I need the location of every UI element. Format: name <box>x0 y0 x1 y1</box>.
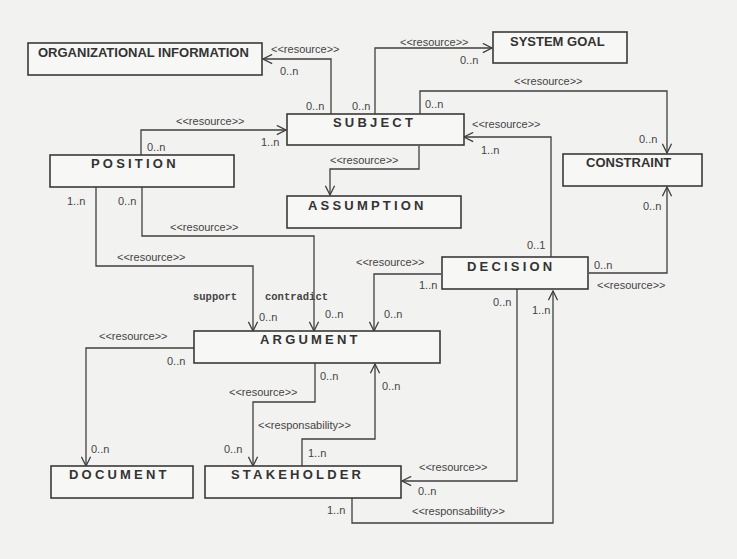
stereotype-label: <<resource>> <box>514 75 583 87</box>
entity-stakeholder[interactable]: STAKEHOLDER <box>205 466 401 498</box>
entity-constraint[interactable]: CONSTRAINT <box>563 154 702 186</box>
stereotype-label: <<responsability>> <box>412 505 505 517</box>
multiplicity: 0..n <box>594 259 612 271</box>
multiplicity: 0..n <box>91 443 109 455</box>
stereotype-label: <<resource>> <box>170 221 239 233</box>
relation-decision-stakeholder <box>402 289 517 481</box>
stereotype-label: <<resource>> <box>99 330 168 342</box>
entity-decision[interactable]: DECISION <box>442 257 588 289</box>
entity-document[interactable]: DOCUMENT <box>51 466 193 498</box>
stereotype-label: <<resource>> <box>330 154 399 166</box>
multiplicity: 1..n <box>532 304 550 316</box>
entity-position[interactable]: POSITION <box>50 155 234 187</box>
multiplicity: 0..n <box>306 100 324 112</box>
multiplicity: 0..n <box>224 443 242 455</box>
stereotype-label: <<resource>> <box>400 36 469 48</box>
multiplicity: 1..n <box>327 504 345 516</box>
svg-text:ORGANIZATIONAL INFORMATION: ORGANIZATIONAL INFORMATION <box>38 45 249 60</box>
multiplicity: 0..1 <box>527 239 545 251</box>
multiplicity: 0..n <box>643 200 661 212</box>
svg-text:ARGUMENT: ARGUMENT <box>260 332 361 347</box>
stereotype-label: <<resource>> <box>117 251 186 263</box>
svg-text:CONSTRAINT: CONSTRAINT <box>586 155 671 170</box>
stereotype-label: <<resource>> <box>597 279 666 291</box>
entity-assumption[interactable]: ASSUMPTION <box>287 196 461 228</box>
multiplicity: 0..n <box>382 380 400 392</box>
multiplicity: 0..n <box>118 195 136 207</box>
multiplicity: 0..n <box>259 311 277 323</box>
stereotype-label: <<resource>> <box>472 118 541 130</box>
multiplicity: 0..n <box>320 370 338 382</box>
multiplicity: 0..n <box>384 308 402 320</box>
multiplicity: 0..n <box>325 308 343 320</box>
multiplicity: 1..n <box>67 195 85 207</box>
svg-text:SYSTEM GOAL: SYSTEM GOAL <box>510 34 605 49</box>
stereotype-label: <<resource>> <box>176 115 245 127</box>
svg-text:DOCUMENT: DOCUMENT <box>69 467 170 482</box>
relation-argument-stakeholder <box>253 362 315 466</box>
multiplicity: 1..n <box>308 447 326 459</box>
multiplicity: 0..n <box>167 355 185 367</box>
multiplicity: 0..n <box>147 141 165 153</box>
multiplicity: 1..n <box>261 136 279 148</box>
multiplicity: 0..n <box>352 100 370 112</box>
stereotype-label: <<resource>> <box>356 256 425 268</box>
stereotype-label: <<resource>> <box>229 386 298 398</box>
multiplicity: 0..n <box>425 98 443 110</box>
svg-text:DECISION: DECISION <box>467 259 555 274</box>
svg-text:STAKEHOLDER: STAKEHOLDER <box>231 467 364 482</box>
class-diagram: ORGANIZATIONAL INFORMATION SYSTEM GOAL S… <box>0 0 737 559</box>
multiplicity: 0..n <box>493 296 511 308</box>
stereotype-label: <<responsability>> <box>258 419 351 431</box>
entity-organizational-information[interactable]: ORGANIZATIONAL INFORMATION <box>28 43 262 75</box>
role-label-contradict: contradict <box>265 291 328 303</box>
stereotype-label: <<resource>> <box>419 461 488 473</box>
multiplicity: 0..n <box>418 485 436 497</box>
entity-subject[interactable]: SUBJECT <box>287 114 464 145</box>
entity-argument[interactable]: ARGUMENT <box>194 331 440 363</box>
multiplicity: 1..n <box>481 144 499 156</box>
svg-text:ASSUMPTION: ASSUMPTION <box>308 198 427 213</box>
role-label-support: support <box>193 291 237 303</box>
multiplicity: 0..n <box>639 133 657 145</box>
stereotype-label: <<resource>> <box>271 43 340 55</box>
svg-text:SUBJECT: SUBJECT <box>333 115 416 130</box>
entity-system-goal[interactable]: SYSTEM GOAL <box>493 32 627 63</box>
svg-text:POSITION: POSITION <box>91 156 179 171</box>
multiplicity: 1..n <box>419 279 437 291</box>
multiplicity: 0..n <box>460 54 478 66</box>
multiplicity: 0..n <box>280 65 298 77</box>
